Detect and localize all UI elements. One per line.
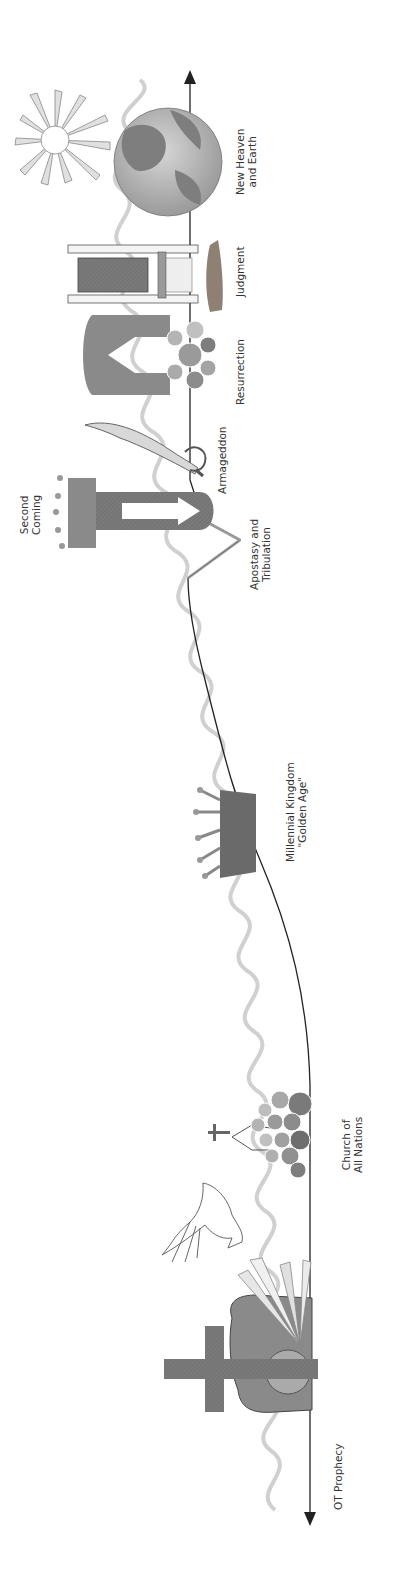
sun-icon	[15, 90, 110, 185]
label-ot-prophecy: OT Prophecy	[332, 1444, 344, 1510]
arrow-start-icon	[304, 1512, 316, 1526]
label-apostasy-tribulation: Apostasy and Tribulation	[248, 519, 272, 590]
church-crowd-icon	[208, 1091, 312, 1178]
arrow-end-icon	[184, 70, 196, 84]
label-resurrection: Resurrection	[234, 339, 246, 405]
cross-and-tomb-icon	[164, 1258, 318, 1412]
label-new-heaven-earth: New Heaven and Earth	[234, 129, 258, 195]
dove-icon	[162, 1183, 242, 1262]
label-second-coming: Second Coming	[18, 495, 42, 535]
postmillennial-timeline-diagram: OT Prophecy Church of All Nations Millen…	[0, 0, 395, 1569]
crown-icon	[193, 787, 256, 879]
label-judgment: Judgment	[234, 246, 246, 297]
globe-sun-icon	[15, 90, 222, 216]
label-armageddon: Armageddon	[216, 426, 228, 494]
rising-arrow-crowd-icon	[83, 315, 216, 395]
label-millennial-kingdom: Millennial Kingdom "Golden Age"	[284, 762, 308, 862]
throne-icon	[68, 240, 223, 312]
label-church-of-all-nations: Church of All Nations	[340, 1117, 364, 1173]
crown-arrow-icon	[53, 475, 214, 549]
sword-icon	[85, 423, 205, 476]
